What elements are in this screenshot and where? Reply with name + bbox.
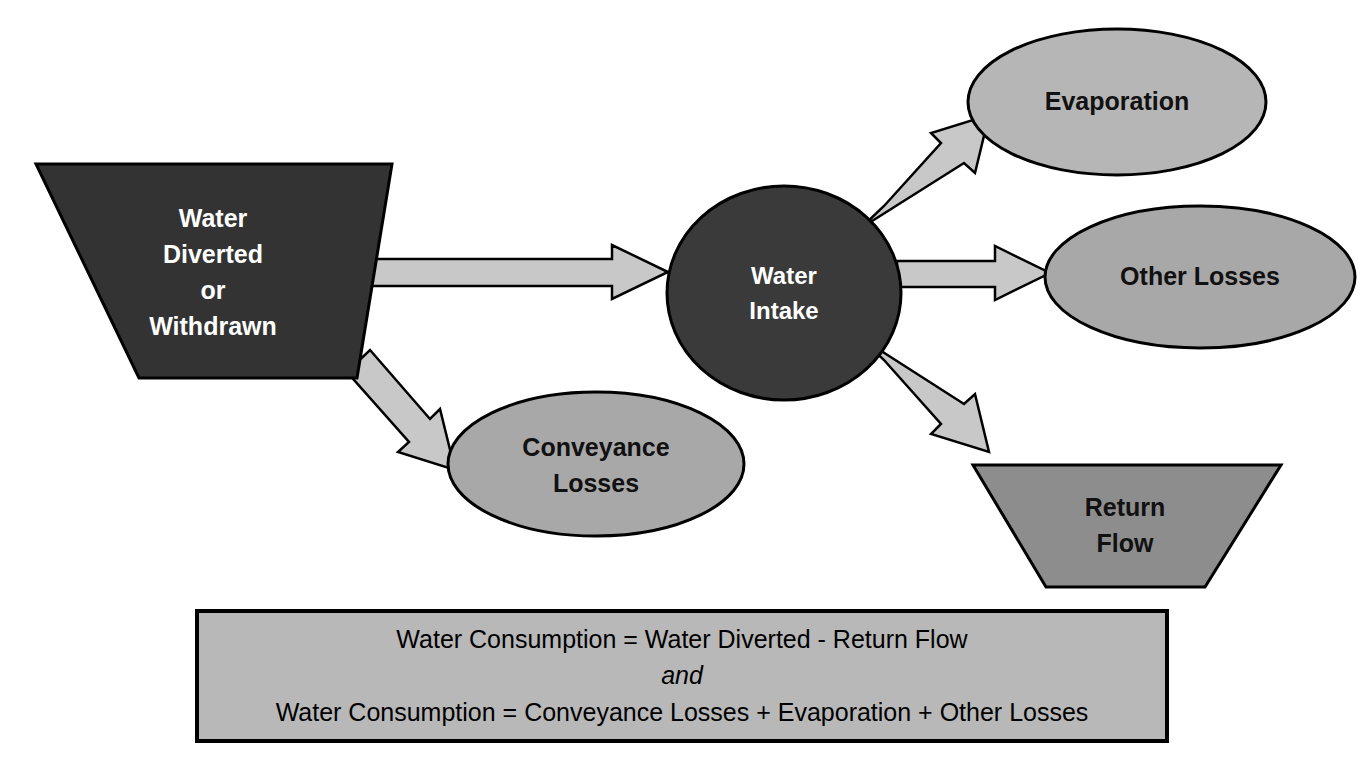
return-flow-label-line-2: Flow — [1097, 529, 1154, 557]
equation-box: Water Consumption = Water Diverted - Ret… — [197, 611, 1167, 741]
water-flow-diagram: Water Diverted or Withdrawn Water Intake… — [0, 0, 1361, 776]
arrow-intake-to-other-losses — [897, 246, 1050, 300]
node-evaporation[interactable]: Evaporation — [968, 29, 1266, 175]
water-intake-label-line-2: Intake — [749, 297, 818, 324]
return-flow-label-line-1: Return — [1085, 493, 1166, 521]
water-intake-label-line-1: Water — [751, 262, 817, 289]
arrow-diverted-to-intake — [352, 245, 668, 299]
node-conveyance-losses[interactable]: Conveyance Losses — [448, 392, 744, 536]
equation-line-2-and: and — [661, 661, 704, 689]
conveyance-losses-label-line-1: Conveyance — [522, 433, 669, 461]
node-return-flow[interactable]: Return Flow — [973, 465, 1281, 587]
conveyance-losses-shape — [448, 392, 744, 536]
node-water-diverted[interactable]: Water Diverted or Withdrawn — [36, 164, 392, 378]
water-diverted-label-line-3: or — [201, 276, 226, 304]
evaporation-label: Evaporation — [1045, 87, 1189, 115]
equation-line-3: Water Consumption = Conveyance Losses + … — [276, 698, 1089, 726]
water-diverted-label-line-4: Withdrawn — [149, 312, 277, 340]
other-losses-label: Other Losses — [1120, 262, 1280, 290]
conveyance-losses-label-line-2: Losses — [553, 469, 639, 497]
node-other-losses[interactable]: Other Losses — [1045, 206, 1355, 348]
arrow-intake-to-evaporation — [861, 115, 989, 228]
water-intake-shape — [667, 186, 901, 400]
node-water-intake[interactable]: Water Intake — [667, 186, 901, 400]
arrow-diverted-to-conveyance — [347, 350, 455, 470]
water-diverted-shape — [36, 164, 392, 378]
diagram-canvas: Water Diverted or Withdrawn Water Intake… — [0, 0, 1361, 776]
equation-line-1: Water Consumption = Water Diverted - Ret… — [396, 625, 968, 653]
water-diverted-label-line-2: Diverted — [163, 240, 263, 268]
return-flow-shape — [973, 465, 1281, 587]
water-diverted-label-line-1: Water — [179, 204, 248, 232]
